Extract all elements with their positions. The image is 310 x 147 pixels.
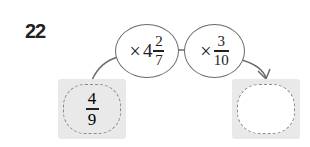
start-fraction: 4 9 <box>86 90 99 127</box>
multiply-sign: × <box>130 40 141 63</box>
start-denominator: 9 <box>88 111 97 128</box>
connector-start-to-op1 <box>92 57 118 80</box>
start-value-box: 4 9 <box>58 79 126 139</box>
op1-denominator: 7 <box>155 53 163 68</box>
start-value-dashed-frame: 4 9 <box>63 84 121 134</box>
op1-numerator: 2 <box>155 34 163 49</box>
operation-bubble-2: × 3 10 <box>184 24 245 78</box>
multiply-sign: × <box>200 40 211 63</box>
op2-fraction: 3 10 <box>214 34 229 67</box>
answer-dashed-frame[interactable] <box>237 84 295 134</box>
op1-whole: 4 <box>143 40 153 62</box>
op2-numerator: 3 <box>217 34 225 49</box>
op2-denominator: 10 <box>214 53 229 68</box>
operation-bubble-1: × 4 2 7 <box>115 24 179 78</box>
op1-fraction: 2 7 <box>153 34 164 67</box>
answer-box[interactable] <box>232 79 300 139</box>
start-numerator: 4 <box>88 90 97 107</box>
